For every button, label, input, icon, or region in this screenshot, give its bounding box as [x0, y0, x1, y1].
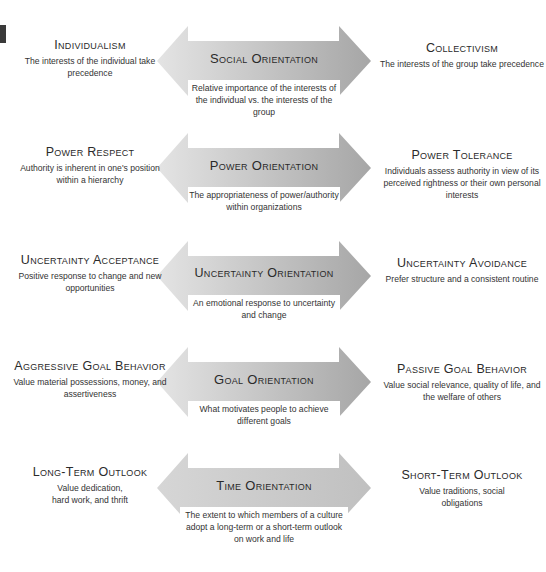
- dimension-title: Social Orientation: [188, 51, 340, 66]
- left-pole-title: Individualism: [20, 38, 160, 52]
- right-pole-title: Collectivism: [378, 41, 546, 55]
- dimension-row-goal: Goal Orientation What motivates people t…: [0, 347, 546, 457]
- left-pole-description: Value dedication, hard work, and thrift: [20, 482, 160, 506]
- dimension-row-uncertainty: Uncertainty Orientation An emotional res…: [0, 241, 546, 351]
- left-pole-title: Power Respect: [20, 145, 160, 159]
- left-pole: Aggressive Goal Behavior Value material …: [10, 359, 170, 400]
- dimension-title: Time Orientation: [188, 478, 340, 493]
- right-pole-description: Individuals assess authority in view of …: [378, 165, 546, 201]
- dimension-row-power: Power Orientation The appropriateness of…: [0, 133, 546, 243]
- right-pole-title: Power Tolerance: [378, 148, 546, 162]
- right-pole-description: The interests of the group take preceden…: [378, 58, 546, 70]
- right-pole: Power Tolerance Individuals assess autho…: [378, 148, 546, 201]
- left-pole-description: Positive response to change and new oppo…: [10, 270, 170, 294]
- right-pole-description: Value social relevance, quality of life,…: [378, 379, 546, 403]
- right-pole-title: Passive Goal Behavior: [378, 362, 546, 376]
- dimension-row-time: Time Orientation The extent to which mem…: [0, 453, 546, 563]
- dimension-row-social: Social Orientation Relative importance o…: [0, 26, 546, 136]
- left-pole-title: Aggressive Goal Behavior: [10, 359, 170, 373]
- dimension-description: Relative importance of the interests of …: [188, 80, 340, 118]
- left-pole: Individualism The interests of the indiv…: [20, 38, 160, 79]
- dimension-title: Uncertainty Orientation: [188, 266, 340, 280]
- left-pole: Power Respect Authority is inherent in o…: [20, 145, 160, 186]
- left-pole-description: Authority is inherent in one's position …: [20, 162, 160, 186]
- right-pole: Passive Goal Behavior Value social relev…: [378, 362, 546, 403]
- dimension-description: The extent to which members of a culture…: [180, 507, 348, 545]
- dimension-description: An emotional response to uncertainty and…: [188, 295, 340, 321]
- left-pole-title: Long-Term Outlook: [20, 465, 160, 479]
- right-pole-description: Prefer structure and a consistent routin…: [378, 273, 546, 285]
- dimension-title: Power Orientation: [188, 158, 340, 173]
- right-pole-title: Short-Term Outlook: [378, 468, 546, 482]
- left-pole-title: Uncertainty Acceptance: [10, 253, 170, 267]
- left-pole-description: Value material possessions, money, and a…: [10, 376, 170, 400]
- left-pole-description: The interests of the individual take pre…: [20, 55, 160, 79]
- right-pole: Uncertainty Avoidance Prefer structure a…: [378, 256, 546, 285]
- right-pole: Short-Term Outlook Value traditions, soc…: [378, 468, 546, 509]
- right-pole-title: Uncertainty Avoidance: [378, 256, 546, 270]
- right-pole: Collectivism The interests of the group …: [378, 41, 546, 70]
- left-pole: Long-Term Outlook Value dedication, hard…: [20, 465, 160, 506]
- dimension-title: Goal Orientation: [188, 372, 340, 387]
- left-pole: Uncertainty Acceptance Positive response…: [10, 253, 170, 294]
- dimension-description: What motivates people to achieve differe…: [188, 401, 340, 427]
- dimension-description: The appropriateness of power/authority w…: [188, 187, 340, 213]
- right-pole-description: Value traditions, social obligations: [378, 485, 546, 509]
